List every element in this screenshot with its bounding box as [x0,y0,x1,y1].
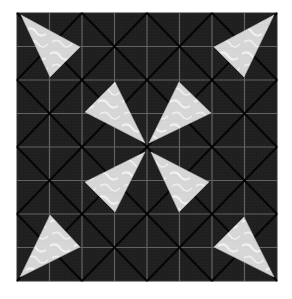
quilt-block [0,0,292,299]
